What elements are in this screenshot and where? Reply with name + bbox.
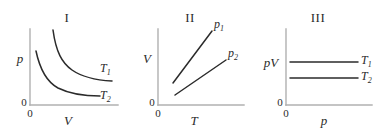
panel-3-pv-pressure: III pV p 0 0 T1 T2 xyxy=(252,0,381,131)
panel-3-x-axis-label: p xyxy=(320,113,328,128)
panel-1-y-axis-label: p xyxy=(16,51,24,66)
panel-1-origin-x: 0 xyxy=(27,107,33,119)
panel-1-label-T1: T1 xyxy=(100,61,111,77)
panel-1-curve-T2 xyxy=(36,51,100,96)
panel-3-title: III xyxy=(311,10,326,25)
panel-3-origin-x: 0 xyxy=(283,107,289,119)
panel-2-x-axis-label: T xyxy=(190,113,198,128)
panel-1-x-axis-label: V xyxy=(64,113,74,128)
thermodynamics-figure: I p V 0 0 T1 T2 II V T 0 0 p1 p2 xyxy=(0,0,381,131)
panel-2-plot: II V T 0 0 p1 p2 xyxy=(128,0,252,131)
panel-1-title: I xyxy=(65,10,70,25)
panel-2-curve-p2 xyxy=(175,60,226,95)
panel-2-volume-temperature: II V T 0 0 p1 p2 xyxy=(128,0,252,131)
panel-3-plot: III pV p 0 0 T1 T2 xyxy=(252,0,381,131)
panel-2-label-p2: p2 xyxy=(227,46,238,62)
panel-3-y-axis-label: pV xyxy=(263,55,281,70)
panel-2-curve-p1 xyxy=(173,31,212,83)
panel-1-pressure-volume: I p V 0 0 T1 T2 xyxy=(0,0,130,131)
panel-1-plot: I p V 0 0 T1 T2 xyxy=(0,0,130,131)
panel-3-label-T2: T2 xyxy=(361,69,372,85)
panel-3-label-T1: T1 xyxy=(361,53,372,69)
panel-2-label-p1: p1 xyxy=(213,17,224,33)
panel-2-title: II xyxy=(185,10,195,25)
panel-2-origin-x: 0 xyxy=(155,107,161,119)
panel-1-label-T2: T2 xyxy=(100,88,111,104)
panel-2-y-axis-label: V xyxy=(143,51,153,66)
